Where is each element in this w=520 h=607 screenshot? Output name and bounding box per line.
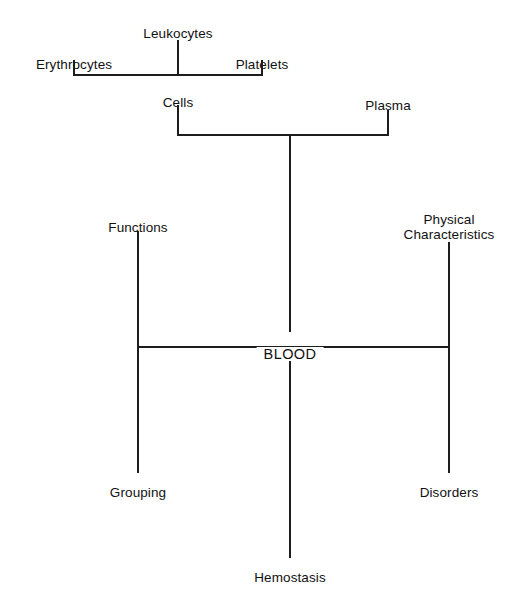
connector-plasma-stem	[387, 110, 389, 136]
connector-functions-stem	[137, 231, 139, 473]
node-label-physical-characteristics: PhysicalCharacteristics	[404, 212, 495, 242]
connector-blood-stem-up	[289, 135, 291, 332]
connector-leukocytes-stem	[177, 40, 179, 76]
node-label-grouping: Grouping	[110, 486, 166, 500]
connector-cells-bar	[74, 74, 263, 76]
node-label-undefined: BLOOD	[257, 347, 324, 361]
node-label-leukocytes: Leukocytes	[143, 27, 212, 41]
node-label-hemostasis: Hemostasis	[254, 571, 326, 585]
connector-blood-stem-down	[289, 360, 291, 558]
node-label-disorders: Disorders	[420, 486, 479, 500]
connector-blood-bar-top	[178, 134, 389, 136]
connector-physical-stem	[448, 242, 450, 473]
connector-cells-stem	[177, 105, 179, 136]
blood-concept-map: LeukocytesErythrocytesPlateletsCellsPlas…	[0, 0, 520, 607]
